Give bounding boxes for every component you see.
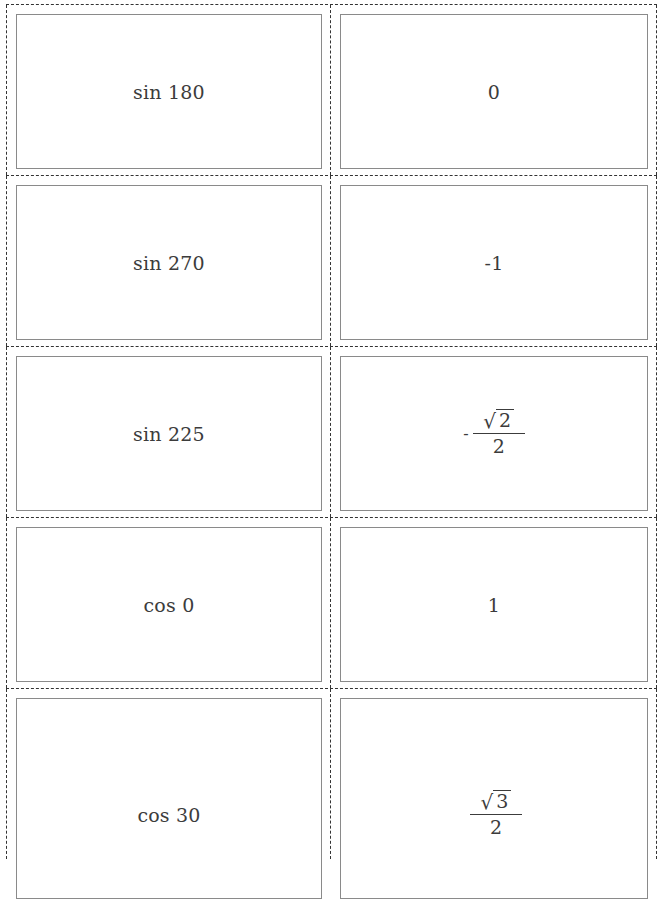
fraction: √ 2 2 bbox=[473, 409, 525, 458]
square-root-icon: √ bbox=[483, 411, 496, 431]
front-cell: cos 0 bbox=[6, 518, 330, 688]
question-text: sin 270 bbox=[133, 252, 205, 274]
question-text: sin 225 bbox=[133, 423, 205, 445]
flashcard-front: cos 30 bbox=[16, 698, 322, 899]
flashcard-row-2: sin 270 -1 bbox=[6, 175, 657, 346]
back-cell: -1 bbox=[330, 176, 657, 346]
flashcard-front: sin 225 bbox=[16, 356, 322, 511]
answer-fraction: √ 3 2 bbox=[466, 790, 522, 839]
denominator: 2 bbox=[490, 815, 502, 839]
numerator: √ 3 bbox=[477, 790, 516, 814]
front-cell: sin 225 bbox=[6, 347, 330, 517]
front-cell: cos 30 bbox=[6, 689, 330, 859]
denominator: 2 bbox=[493, 434, 505, 458]
question-text: cos 30 bbox=[137, 804, 200, 826]
flashcard-back: 1 bbox=[340, 527, 648, 682]
answer-text: -1 bbox=[485, 252, 504, 274]
numerator: √ 2 bbox=[479, 409, 518, 433]
back-cell: - √ 2 2 bbox=[330, 347, 657, 517]
flashcard-back: 0 bbox=[340, 14, 648, 169]
back-cell: 0 bbox=[330, 5, 657, 175]
question-text: sin 180 bbox=[133, 81, 205, 103]
flashcard-back: - √ 2 2 bbox=[340, 356, 648, 511]
flashcard-row-1: sin 180 0 bbox=[6, 4, 657, 175]
flashcard-back: √ 3 2 bbox=[340, 698, 648, 899]
flashcard-sheet: sin 180 0 sin 270 -1 sin 225 bbox=[6, 4, 657, 859]
negative-sign: - bbox=[463, 424, 468, 443]
answer-text: 0 bbox=[488, 81, 500, 103]
question-text: cos 0 bbox=[144, 594, 195, 616]
answer-text: 1 bbox=[488, 594, 500, 616]
flashcard-front: sin 270 bbox=[16, 185, 322, 340]
back-cell: √ 3 2 bbox=[330, 689, 657, 859]
flashcard-row-4: cos 0 1 bbox=[6, 517, 657, 688]
fraction: √ 3 2 bbox=[470, 790, 522, 839]
back-cell: 1 bbox=[330, 518, 657, 688]
flashcard-front: sin 180 bbox=[16, 14, 322, 169]
front-cell: sin 270 bbox=[6, 176, 330, 346]
flashcard-back: -1 bbox=[340, 185, 648, 340]
flashcard-row-3: sin 225 - √ 2 2 bbox=[6, 346, 657, 517]
flashcard-front: cos 0 bbox=[16, 527, 322, 682]
radicand: 3 bbox=[493, 790, 511, 812]
flashcard-row-5: cos 30 √ 3 2 bbox=[6, 688, 657, 859]
radicand: 2 bbox=[496, 409, 514, 431]
front-cell: sin 180 bbox=[6, 5, 330, 175]
square-root-icon: √ bbox=[481, 792, 494, 812]
answer-fraction: - √ 2 2 bbox=[463, 409, 524, 458]
